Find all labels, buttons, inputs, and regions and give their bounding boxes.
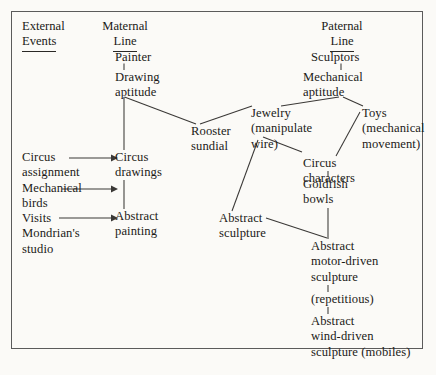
node-jewelry: Jewelry (manipulate wire) [251, 106, 312, 152]
node-mechanical-aptitude: Mechanical aptitude [303, 70, 363, 101]
column-header-external-line2: Events [22, 34, 56, 51]
column-header-paternal-line1: Paternal [321, 19, 362, 33]
node-painter: Painter [115, 50, 151, 65]
node-drawing-aptitude: Drawing aptitude [115, 70, 160, 101]
external-event-circus-assignment: Circus assignment [22, 150, 80, 181]
node-abstract-painting: Abstract painting [115, 209, 158, 240]
external-event-mechanical-birds: Mechanical birds [22, 181, 82, 212]
column-header-external: ExternalEvents [22, 19, 65, 52]
node-goldfish-bowls: Goldfish bowls [303, 177, 348, 208]
external-event-visits-mondrians-studio: Visits Mondrian's studio [22, 211, 80, 257]
column-header-maternal: MaternalLine [96, 19, 154, 52]
column-header-maternal-line1: Maternal [102, 19, 147, 33]
node-rooster-sundial: Rooster sundial [191, 124, 231, 155]
node-abstract-sculpture: Abstract sculpture [219, 211, 266, 242]
node-toys: Toys (mechanical movement) [362, 106, 425, 152]
diagram-page: ExternalEvents MaternalLine PaternalLine… [0, 0, 436, 375]
node-sculptors: Sculptors [311, 50, 359, 65]
node-abstract-motor-driven-sculpture: Abstract motor-driven sculpture [311, 239, 378, 285]
column-header-paternal: PaternalLine [313, 19, 371, 52]
node-abstract-wind-driven-sculpture: Abstract wind-driven sculpture (mobiles) [311, 314, 410, 360]
node-circus-drawings: Circus drawings [115, 150, 162, 181]
column-header-external-line1: External [22, 19, 65, 33]
node-repetitious: (repetitious) [311, 292, 374, 307]
